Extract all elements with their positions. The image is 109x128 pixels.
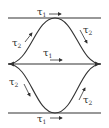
label-upper-left: τ2 <box>12 37 22 49</box>
label-top: τ1 <box>37 6 46 18</box>
label-lower-right: τ2 <box>83 94 93 106</box>
shear-stress-diagram: τ1 τ2 τ2 τ1 τ2 τ2 τ1 <box>0 0 109 128</box>
label-upper-right: τ2 <box>83 24 93 36</box>
label-bottom: τ1 <box>37 113 46 125</box>
lower-curve <box>8 64 101 113</box>
label-lower-left: τ2 <box>9 76 19 88</box>
lower-left-arrow <box>24 84 30 96</box>
label-middle: τ1 <box>43 47 52 59</box>
upper-left-arrow <box>25 33 32 42</box>
